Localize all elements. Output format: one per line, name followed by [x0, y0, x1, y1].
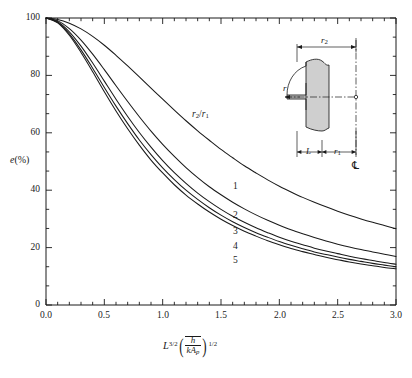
curve-label-2: 2	[233, 211, 238, 221]
curve-4	[46, 18, 396, 267]
x-axis-fraction: hkAp	[185, 336, 202, 356]
legend-title: r2/r1	[192, 110, 209, 120]
curve-2	[46, 18, 396, 257]
inset-fin-profile	[306, 59, 329, 131]
denominator: kAp	[185, 346, 202, 356]
x-tick-label: 0.5	[90, 311, 118, 321]
inset-label-r2: r2	[321, 36, 328, 46]
y-axis-title-unit: (%)	[14, 154, 29, 165]
inset-arrow-L-left	[297, 150, 301, 154]
curve-label-3: 3	[233, 227, 238, 237]
inset-arrow-r2-left	[297, 45, 302, 49]
left-paren: (	[179, 336, 183, 357]
A-subscript: p	[196, 349, 199, 356]
inset-fin-diagram	[285, 38, 360, 157]
x-tick-label: 3.0	[382, 311, 410, 321]
legend-r1-subscript: 1	[205, 112, 208, 119]
inset-fillet-curve	[287, 62, 306, 95]
curve-label-1: 1	[233, 182, 238, 192]
y-tick-label: 40	[18, 185, 40, 195]
curve-3	[46, 18, 396, 264]
x-axis-title-outer-exponent: 1/2	[208, 340, 217, 347]
inset-label-r1: r1	[334, 147, 341, 157]
x-axis-title-L-exponent: 3/2	[169, 340, 178, 347]
x-tick-label: 1.5	[207, 311, 235, 321]
inset-label-r: r	[283, 84, 287, 93]
data-curves	[46, 18, 396, 269]
inset-arrow-r1-right	[352, 150, 356, 154]
y-tick-label: 80	[18, 70, 40, 80]
inset-arrow-r2-right	[351, 45, 356, 49]
x-tick-label: 0.0	[32, 311, 60, 321]
inset-arrow-r1-left	[322, 150, 326, 154]
curve-label-5: 5	[233, 256, 238, 266]
x-tick-label: 2.5	[324, 311, 352, 321]
h-bar-symbol: h	[185, 336, 202, 346]
y-axis-title: e(%)	[10, 155, 29, 165]
inset-r1-subscript: 1	[338, 149, 341, 156]
curve-label-4: 4	[233, 242, 238, 252]
inset-arrow-L-right	[318, 150, 322, 154]
inset-r-symbol: r	[283, 83, 287, 93]
y-tick-label: 0	[18, 300, 40, 310]
y-tick-label: 100	[18, 13, 40, 23]
y-tick-label: 20	[18, 243, 40, 253]
x-axis-title: L3/2(hkAp)1/2	[163, 336, 217, 357]
inset-label-L: L	[306, 147, 311, 156]
inset-r2-subscript: 2	[325, 38, 328, 45]
y-tick-label: 60	[18, 128, 40, 138]
x-tick-label: 1.0	[149, 311, 177, 321]
inset-centerline-label: ℄	[352, 160, 359, 171]
fin-efficiency-chart	[0, 0, 412, 378]
right-paren: )	[203, 336, 207, 357]
figure-container: 100 80 60 40 20 0 0.0 0.5 1.0 1.5 2.0 2.…	[0, 0, 412, 378]
inset-axis-node	[354, 95, 357, 98]
inset-L-symbol: L	[306, 146, 311, 156]
x-tick-label: 2.0	[266, 311, 294, 321]
curve-1	[46, 18, 396, 229]
curve-5	[46, 18, 396, 269]
